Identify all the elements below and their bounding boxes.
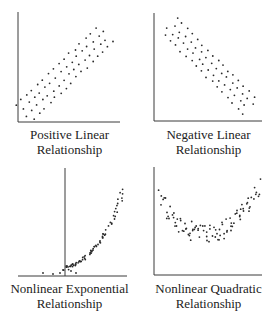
data-point (38, 92, 40, 94)
data-point (37, 84, 39, 86)
data-point (194, 227, 196, 229)
data-point (167, 215, 169, 217)
data-point (58, 63, 60, 65)
data-point (208, 241, 210, 243)
data-point (78, 43, 80, 45)
data-point (216, 86, 218, 88)
data-point (46, 95, 48, 97)
data-point (212, 55, 214, 57)
caption-line-2: Relationship (139, 142, 278, 157)
data-point (204, 225, 206, 227)
data-point (82, 259, 84, 261)
data-point (211, 62, 213, 64)
data-point (236, 212, 238, 214)
data-point (75, 49, 77, 51)
data-point (92, 248, 94, 250)
data-point (165, 34, 167, 36)
data-point (49, 82, 51, 84)
data-point (108, 225, 110, 227)
data-point (197, 229, 199, 231)
data-point (212, 235, 214, 237)
data-point (225, 218, 227, 220)
caption-nonlinear-quadratic: Nonlinear Quadratic Relationship (139, 281, 278, 311)
data-point (36, 104, 38, 106)
data-point (99, 240, 101, 242)
data-point (180, 218, 182, 220)
data-point (92, 249, 94, 251)
data-point (219, 229, 221, 231)
data-point (177, 37, 179, 39)
data-point (68, 269, 70, 271)
data-point (42, 272, 44, 274)
data-point (80, 71, 82, 73)
data-point (231, 102, 233, 104)
data-point (195, 65, 197, 67)
data-point (192, 52, 194, 54)
data-point (200, 225, 202, 227)
data-point (116, 205, 118, 207)
data-point (224, 84, 226, 86)
data-point (213, 226, 215, 228)
data-point (81, 50, 83, 52)
data-point (201, 70, 203, 72)
data-point (190, 41, 192, 43)
data-point (185, 56, 187, 58)
data-point (166, 218, 168, 220)
data-point (190, 239, 192, 241)
data-point (240, 100, 242, 102)
data-point (237, 80, 239, 82)
data-point (215, 68, 217, 70)
data-point (84, 255, 86, 257)
data-point (227, 97, 229, 99)
data-point (30, 90, 32, 92)
data-point (75, 55, 77, 57)
data-point (214, 236, 216, 238)
data-point (213, 74, 215, 76)
data-point (189, 232, 191, 234)
data-point (75, 272, 77, 274)
data-point (218, 80, 220, 82)
data-point (239, 216, 241, 218)
data-point (121, 197, 123, 199)
data-point (255, 193, 257, 195)
data-point (68, 73, 70, 75)
data-point (162, 199, 164, 201)
data-point (73, 69, 75, 71)
data-point (165, 197, 167, 199)
data-point (95, 245, 97, 247)
data-point (44, 86, 46, 88)
data-point (174, 25, 176, 27)
data-point (50, 102, 52, 104)
data-point (169, 206, 171, 208)
data-point (233, 222, 235, 224)
data-point (105, 229, 107, 231)
caption-line-1: Nonlinear Exponential (0, 281, 139, 296)
data-point (66, 66, 68, 68)
data-point (236, 210, 238, 212)
data-point (31, 110, 33, 112)
data-point (60, 92, 62, 94)
data-point (206, 231, 208, 233)
data-point (242, 93, 244, 95)
data-point (215, 229, 217, 231)
caption-line-1: Nonlinear Quadratic (139, 281, 278, 296)
data-point (187, 48, 189, 50)
data-point (202, 225, 204, 227)
data-point (84, 259, 86, 261)
data-point (232, 74, 234, 76)
data-point (42, 99, 44, 101)
data-point (95, 27, 97, 29)
data-point (67, 266, 69, 268)
data-point (218, 239, 220, 241)
data-point (223, 233, 225, 235)
data-point (63, 58, 65, 60)
data-point (254, 96, 256, 98)
data-point (105, 233, 107, 235)
data-point (53, 90, 55, 92)
data-point (170, 40, 172, 42)
data-point (218, 60, 220, 62)
data-point (243, 104, 245, 106)
data-point (117, 203, 119, 205)
data-point (70, 83, 72, 85)
data-point (114, 211, 116, 213)
